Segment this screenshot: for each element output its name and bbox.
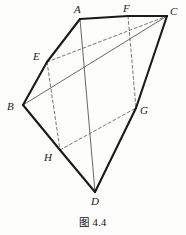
vertex-label-d: D (91, 196, 99, 207)
vertex-label-h: H (44, 152, 52, 163)
edge-G-D (95, 108, 136, 192)
vertex-label-a: A (74, 4, 81, 15)
vertex-label-g: G (140, 105, 148, 116)
geometry-figure: AFCEBGHD 图 4.4 (0, 0, 186, 235)
edge-C-G (136, 16, 167, 108)
edge-H-D (60, 150, 95, 192)
vertex-label-b: B (7, 101, 14, 112)
edge-A-F (80, 16, 128, 19)
dashed-edge-group (47, 16, 167, 150)
vertex-label-f: F (123, 3, 130, 14)
figure-caption: 图 4.4 (0, 214, 186, 229)
vertex-label-e: E (33, 51, 40, 62)
vertex-label-c: C (170, 6, 177, 17)
edge-A-D (80, 19, 95, 192)
edge-B-C (23, 16, 167, 105)
edge-E-B (23, 62, 47, 105)
